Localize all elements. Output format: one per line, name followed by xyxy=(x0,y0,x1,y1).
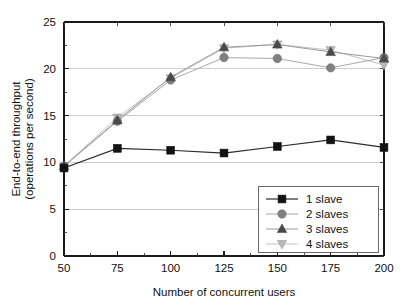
x-tick-label-50: 50 xyxy=(58,262,71,274)
y-tick-label-5: 5 xyxy=(50,203,56,215)
series-line xyxy=(64,44,384,166)
y-axis-title-line1: End-to-end throughput xyxy=(10,81,22,197)
data-point xyxy=(326,64,334,72)
y-tick-label-15: 15 xyxy=(43,110,56,122)
x-tick-label-125: 125 xyxy=(214,262,233,274)
data-series-layer xyxy=(59,39,389,171)
legend-label: 1 slave xyxy=(306,193,342,205)
throughput-line-chart: 5075100125150175200 0510152025 1 slave2 … xyxy=(0,0,405,308)
x-tick-label-100: 100 xyxy=(161,262,180,274)
chart-legend: 1 slave2 slaves3 slaves4 slaves xyxy=(258,186,378,252)
data-point xyxy=(327,136,335,144)
y-tick-label-25: 25 xyxy=(43,16,56,28)
x-tick-label-200: 200 xyxy=(374,262,393,274)
chart-figure: 5075100125150175200 0510152025 1 slave2 … xyxy=(0,0,405,308)
x-axis-title: Number of concurrent users xyxy=(153,286,296,298)
data-point xyxy=(273,54,281,62)
series-1-slave xyxy=(60,136,388,172)
y-tick-label-20: 20 xyxy=(43,63,56,75)
y-tick-label-0: 0 xyxy=(50,250,56,262)
legend-marker-swatch xyxy=(278,210,286,218)
y-tick-label-10: 10 xyxy=(43,156,56,168)
y-axis-title-line2: (operations per second) xyxy=(23,78,35,200)
data-point xyxy=(380,144,388,152)
legend-label: 4 slaves xyxy=(306,238,348,250)
data-point xyxy=(60,164,68,172)
legend-label: 3 slaves xyxy=(306,223,348,235)
x-tick-labels: 5075100125150175200 xyxy=(58,262,394,274)
data-point xyxy=(220,53,228,61)
data-point xyxy=(273,143,281,151)
data-point xyxy=(220,149,228,157)
y-tick-labels: 0510152025 xyxy=(43,16,56,262)
series-line xyxy=(64,44,384,166)
legend-label: 2 slaves xyxy=(306,208,348,220)
x-tick-label-175: 175 xyxy=(321,262,340,274)
data-point xyxy=(113,144,121,152)
x-tick-label-150: 150 xyxy=(268,262,287,274)
data-point xyxy=(167,146,175,154)
x-tick-label-75: 75 xyxy=(111,262,124,274)
legend-marker-swatch xyxy=(278,195,286,203)
